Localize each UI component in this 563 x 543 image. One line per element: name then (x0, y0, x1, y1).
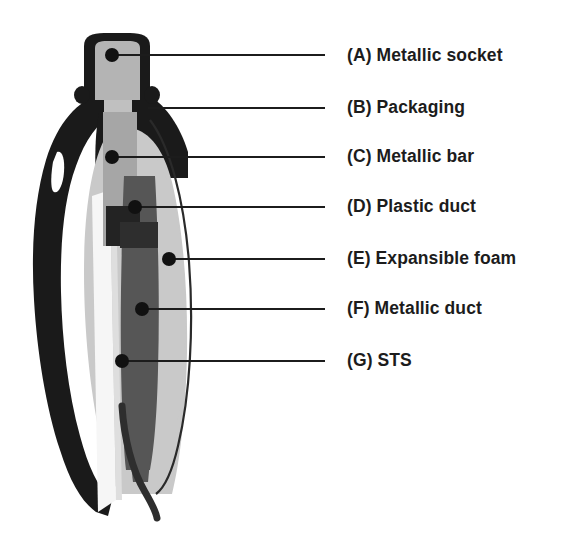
leader-dot-d (128, 200, 142, 214)
leader-dot-f (135, 302, 149, 316)
figure-page: (A) Metallic socket (B) Packaging (C) Me… (0, 0, 563, 543)
legend-label-c: (C) Metallic bar (347, 148, 474, 166)
legend-label-d: (D) Plastic duct (347, 198, 476, 216)
metallic-duct-step-block (120, 222, 158, 248)
legend-label-b: (B) Packaging (347, 99, 465, 117)
metallic-socket-interior (95, 41, 140, 100)
probe-cross-section-illustration (0, 0, 563, 543)
socket-ear-left (74, 86, 90, 104)
socket-ear-right (144, 86, 160, 104)
legend-label-g: (G) STS (347, 352, 412, 370)
legend-label-f: (F) Metallic duct (347, 300, 482, 318)
leader-dot-a (105, 48, 119, 62)
legend-label-e: (E) Expansible foam (347, 250, 516, 268)
leader-dot-g (115, 354, 129, 368)
legend-label-a: (A) Metallic socket (347, 47, 503, 65)
leader-dot-c (105, 150, 119, 164)
leader-dot-e (162, 252, 176, 266)
socket-neck-interior (104, 100, 132, 112)
